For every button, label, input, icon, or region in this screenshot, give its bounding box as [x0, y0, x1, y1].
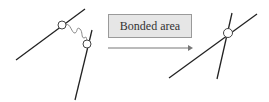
- node-left-a: [58, 21, 66, 29]
- fiber-left-a: [16, 9, 85, 60]
- label-text: Bonded area: [120, 19, 180, 34]
- arrow-head: [188, 45, 193, 51]
- fiber-right-b: [217, 13, 232, 79]
- wavy-bridge: [66, 25, 87, 42]
- node-left-b: [83, 40, 91, 48]
- bonded-area-label: Bonded area: [108, 14, 192, 38]
- bond-node: [224, 29, 233, 38]
